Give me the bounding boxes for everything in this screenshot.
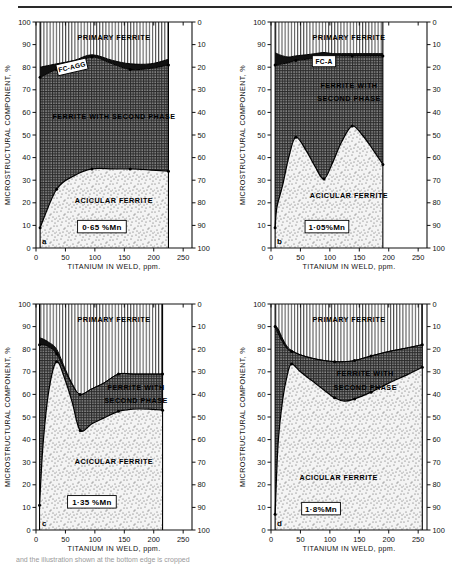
svg-text:90: 90 bbox=[257, 322, 265, 331]
svg-text:60: 60 bbox=[433, 153, 441, 162]
svg-text:40: 40 bbox=[257, 435, 265, 444]
svg-text:FERRITE WITH SECOND PHASE: FERRITE WITH SECOND PHASE bbox=[52, 112, 175, 121]
svg-text:PRIMARY FERRITE: PRIMARY FERRITE bbox=[313, 315, 386, 324]
svg-text:SECOND PHASE: SECOND PHASE bbox=[317, 94, 381, 103]
svg-text:80: 80 bbox=[198, 198, 206, 207]
svg-text:70: 70 bbox=[257, 367, 265, 376]
svg-text:40: 40 bbox=[198, 108, 206, 117]
svg-text:b: b bbox=[277, 237, 282, 246]
svg-text:90: 90 bbox=[433, 503, 441, 512]
svg-text:50: 50 bbox=[198, 413, 206, 422]
svg-text:TITANIUM IN WELD, ppm.: TITANIUM IN WELD, ppm. bbox=[67, 544, 160, 553]
svg-text:90: 90 bbox=[198, 503, 206, 512]
svg-text:30: 30 bbox=[22, 176, 30, 185]
svg-text:70: 70 bbox=[433, 458, 441, 467]
svg-text:70: 70 bbox=[22, 85, 30, 94]
svg-text:60: 60 bbox=[22, 108, 30, 117]
svg-text:c: c bbox=[42, 519, 47, 528]
svg-text:100: 100 bbox=[324, 253, 336, 262]
svg-text:250: 250 bbox=[412, 535, 424, 544]
svg-text:10: 10 bbox=[257, 221, 265, 230]
svg-text:90: 90 bbox=[198, 221, 206, 230]
svg-text:PRIMARY FERRITE: PRIMARY FERRITE bbox=[78, 315, 151, 324]
svg-text:150: 150 bbox=[353, 253, 365, 262]
svg-text:0: 0 bbox=[34, 535, 38, 544]
svg-text:80: 80 bbox=[22, 345, 30, 354]
svg-text:0: 0 bbox=[34, 253, 38, 262]
svg-text:TITANIUM IN WELD, ppm.: TITANIUM IN WELD, ppm. bbox=[302, 262, 395, 271]
chart-panel-c: 0102030405060708090100010203040506070809… bbox=[0, 282, 235, 564]
svg-text:1·05%Mn: 1·05%Mn bbox=[309, 223, 346, 232]
svg-text:30: 30 bbox=[257, 458, 265, 467]
chart-panel-b: 0102030405060708090100010203040506070809… bbox=[235, 0, 470, 282]
svg-text:150: 150 bbox=[118, 535, 130, 544]
svg-text:80: 80 bbox=[198, 480, 206, 489]
svg-text:10: 10 bbox=[198, 322, 206, 331]
svg-text:200: 200 bbox=[383, 535, 395, 544]
svg-text:100: 100 bbox=[433, 244, 445, 253]
svg-text:100: 100 bbox=[198, 526, 210, 535]
svg-text:20: 20 bbox=[433, 63, 441, 72]
svg-text:40: 40 bbox=[433, 390, 441, 399]
svg-text:70: 70 bbox=[433, 176, 441, 185]
svg-text:20: 20 bbox=[433, 345, 441, 354]
svg-text:50: 50 bbox=[433, 413, 441, 422]
svg-text:0: 0 bbox=[198, 300, 202, 309]
svg-text:200: 200 bbox=[148, 535, 160, 544]
svg-text:60: 60 bbox=[198, 153, 206, 162]
svg-text:150: 150 bbox=[353, 535, 365, 544]
svg-text:1·35 %Mn: 1·35 %Mn bbox=[72, 498, 111, 507]
svg-text:20: 20 bbox=[257, 480, 265, 489]
svg-text:80: 80 bbox=[433, 198, 441, 207]
svg-text:PRIMARY FERRITE: PRIMARY FERRITE bbox=[78, 33, 151, 42]
svg-text:0: 0 bbox=[433, 18, 437, 27]
svg-text:FERRITE WITH: FERRITE WITH bbox=[108, 383, 165, 392]
svg-text:30: 30 bbox=[433, 85, 441, 94]
svg-text:a: a bbox=[42, 237, 47, 246]
svg-text:50: 50 bbox=[296, 253, 304, 262]
svg-text:60: 60 bbox=[433, 435, 441, 444]
svg-text:100: 100 bbox=[253, 18, 265, 27]
svg-text:10: 10 bbox=[433, 322, 441, 331]
chart-panel-a: 0102030405060708090100010203040506070809… bbox=[0, 0, 235, 282]
svg-text:0·65 %Mn: 0·65 %Mn bbox=[82, 223, 121, 232]
svg-text:50: 50 bbox=[61, 253, 69, 262]
svg-text:10: 10 bbox=[257, 503, 265, 512]
svg-text:30: 30 bbox=[22, 458, 30, 467]
svg-text:ACICULAR FERRITE: ACICULAR FERRITE bbox=[75, 196, 153, 205]
svg-text:90: 90 bbox=[433, 221, 441, 230]
svg-text:MICROSTRUCTURAL COMPONENT, %: MICROSTRUCTURAL COMPONENT, % bbox=[3, 347, 12, 487]
svg-text:0: 0 bbox=[198, 18, 202, 27]
svg-text:100: 100 bbox=[253, 300, 265, 309]
svg-text:50: 50 bbox=[198, 131, 206, 140]
svg-text:40: 40 bbox=[257, 153, 265, 162]
chart-panel-d: 0102030405060708090100010203040506070809… bbox=[235, 282, 470, 564]
svg-text:50: 50 bbox=[22, 131, 30, 140]
svg-text:60: 60 bbox=[198, 435, 206, 444]
svg-text:100: 100 bbox=[433, 526, 445, 535]
svg-text:200: 200 bbox=[148, 253, 160, 262]
svg-text:20: 20 bbox=[22, 198, 30, 207]
svg-text:1·8%Mn: 1·8%Mn bbox=[305, 505, 337, 514]
svg-text:SECOND PHASE: SECOND PHASE bbox=[333, 383, 397, 392]
svg-text:ACICULAR FERRITE: ACICULAR FERRITE bbox=[310, 191, 388, 200]
svg-text:20: 20 bbox=[257, 198, 265, 207]
svg-text:90: 90 bbox=[257, 40, 265, 49]
svg-text:60: 60 bbox=[257, 108, 265, 117]
svg-text:d: d bbox=[277, 519, 282, 528]
svg-text:60: 60 bbox=[22, 390, 30, 399]
svg-text:70: 70 bbox=[198, 458, 206, 467]
svg-text:50: 50 bbox=[257, 131, 265, 140]
svg-text:250: 250 bbox=[177, 253, 189, 262]
svg-text:100: 100 bbox=[18, 18, 30, 27]
svg-text:90: 90 bbox=[22, 40, 30, 49]
svg-text:70: 70 bbox=[22, 367, 30, 376]
svg-text:30: 30 bbox=[198, 85, 206, 94]
svg-text:50: 50 bbox=[61, 535, 69, 544]
svg-text:10: 10 bbox=[22, 221, 30, 230]
svg-text:40: 40 bbox=[22, 153, 30, 162]
svg-text:ACICULAR FERRITE: ACICULAR FERRITE bbox=[75, 457, 153, 466]
svg-text:60: 60 bbox=[257, 390, 265, 399]
svg-text:10: 10 bbox=[433, 40, 441, 49]
svg-text:200: 200 bbox=[383, 253, 395, 262]
